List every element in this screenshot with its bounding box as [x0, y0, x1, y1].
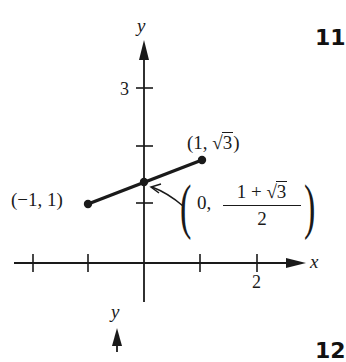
- x-tick-label-2: 2: [252, 273, 261, 291]
- problem-number-11: 11: [315, 27, 346, 49]
- second-y-axis-arrow-icon: [112, 328, 122, 346]
- fraction-denominator: 2: [257, 209, 267, 228]
- point-left-label: (−1, 1): [11, 190, 63, 209]
- point-right-label: (1, √3): [187, 132, 240, 153]
- x-axis-arrow-icon: [286, 258, 306, 268]
- fraction-numerator: 1 + √3: [237, 181, 288, 202]
- point-midpoint: [140, 178, 148, 186]
- y-axis-label: y: [137, 16, 145, 35]
- second-y-axis-label: y: [111, 302, 119, 321]
- y-tick-label-3: 3: [120, 80, 129, 98]
- point-right: [198, 156, 206, 164]
- midpoint-x: 0,: [197, 193, 211, 212]
- pointer-arrow: [152, 187, 183, 206]
- x-axis-label: x: [310, 252, 318, 271]
- fraction-bar: [223, 205, 301, 206]
- midpoint-close-paren: ): [304, 175, 315, 237]
- midpoint-fraction: 1 + √3 2: [223, 181, 301, 228]
- problem-number-12: 12: [315, 340, 346, 362]
- midpoint-open-paren: (: [180, 175, 191, 237]
- y-axis-arrow-icon: [139, 40, 149, 60]
- point-left: [84, 200, 92, 208]
